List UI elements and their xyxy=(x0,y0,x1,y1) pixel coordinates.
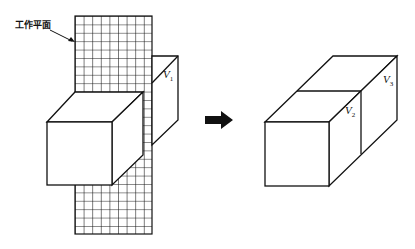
right-split-box xyxy=(265,56,397,186)
work-plane-label: 工作平面 xyxy=(15,19,75,42)
arrow-right-icon xyxy=(205,111,233,129)
work-plane-label-text: 工作平面 xyxy=(15,19,51,30)
work-plane-split-diagram: 工作平面 V1 V2 V3 xyxy=(0,0,415,249)
